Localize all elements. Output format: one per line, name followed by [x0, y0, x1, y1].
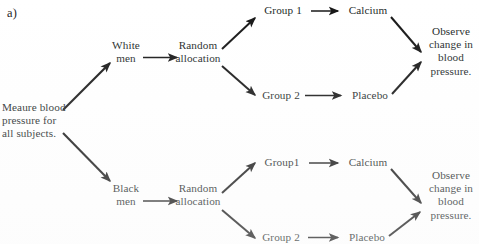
node-random-allocation-bottom: Random allocation — [170, 182, 226, 208]
node-white-men: White men — [106, 39, 146, 65]
node-observe-bottom: Observe change in blood pressure. — [423, 169, 479, 222]
node-calcium-top: Calcium — [343, 4, 393, 17]
arrow-random-bottom-to-group1 — [222, 163, 255, 193]
node-measure-blood-pressure: Meaure blood pressure for all subjects. — [2, 101, 74, 141]
arrow-placebo-to-observe-top — [392, 62, 421, 94]
node-group-2-top: Group 2 — [256, 89, 306, 102]
node-placebo-top: Placebo — [345, 89, 395, 102]
node-group-1-bottom: Group1 — [257, 156, 307, 169]
node-group-2-bottom: Group 2 — [256, 231, 306, 244]
arrow-calcium-to-observe-top — [391, 17, 421, 52]
node-group-1-top: Group 1 — [258, 4, 308, 17]
arrow-random-top-to-group1 — [222, 18, 255, 49]
arrow-random-bottom-to-group2 — [222, 210, 255, 238]
node-observe-top: Observe change in blood pressure. — [423, 25, 479, 78]
node-calcium-bottom: Calcium — [343, 156, 393, 169]
figure-canvas: a) Meaure blood pressure for all subject… — [0, 0, 479, 244]
arrow-random-top-to-group2 — [222, 66, 255, 95]
panel-label-a: a) — [7, 6, 17, 21]
arrow-placebo-to-observe-bottom — [389, 212, 420, 236]
arrow-calcium-to-observe-bottom — [391, 169, 421, 203]
node-placebo-bottom: Placebo — [342, 231, 392, 244]
node-black-men: Black men — [106, 182, 146, 208]
node-random-allocation-top: Random allocation — [170, 39, 226, 65]
